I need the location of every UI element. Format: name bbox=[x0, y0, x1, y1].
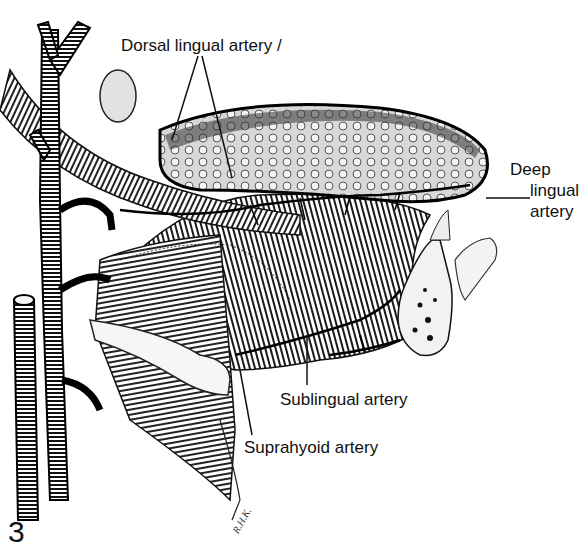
label-suprahyoid-artery: Suprahyoid artery bbox=[244, 438, 378, 458]
leader-suprahyoid bbox=[240, 370, 252, 435]
label-dorsal-lingual-artery: Dorsal lingual artery / bbox=[121, 36, 282, 56]
label-sublingual-artery: Sublingual artery bbox=[280, 390, 408, 410]
label-deep-line3: artery bbox=[530, 202, 573, 222]
figure-number: 3 bbox=[8, 515, 25, 549]
label-deep-line1: Deep bbox=[510, 160, 551, 180]
anatomical-illustration: Dorsal lingual artery / Deep lingual art… bbox=[0, 0, 584, 559]
illustration-drawing bbox=[0, 0, 584, 559]
label-deep-line2: lingual bbox=[530, 181, 579, 201]
